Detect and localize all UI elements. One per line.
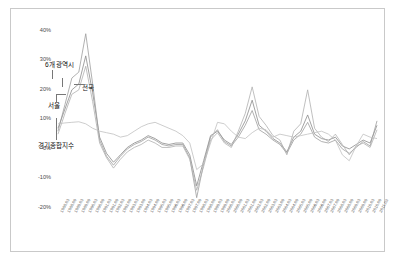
label-leader-line (62, 78, 63, 87)
label-leader-line (56, 118, 57, 140)
chart-figure: 40%30%20%10%0%-10%-20% 1988.031988.09198… (0, 0, 395, 260)
series-label: 서울 (48, 100, 60, 110)
line-series (58, 122, 377, 170)
label-leader-line (56, 94, 66, 95)
line-series (58, 66, 377, 190)
label-leader-line (56, 94, 57, 103)
y-axis-tick-label: 20% (21, 86, 51, 92)
label-leader-line (74, 84, 84, 85)
plot-area (55, 16, 380, 208)
series-label: 6개 광역시 (45, 59, 75, 69)
y-axis-tick-label: 40% (21, 27, 51, 33)
line-series (58, 34, 377, 198)
series-label: 경기종합지수 (38, 140, 74, 150)
y-axis-tick-label: -10% (21, 174, 51, 180)
y-axis-tick-label: 10% (21, 115, 51, 121)
line-series (58, 56, 377, 186)
y-axis-tick-label: -20% (21, 204, 51, 210)
label-leader-line (52, 70, 53, 79)
series-lines (55, 16, 380, 208)
